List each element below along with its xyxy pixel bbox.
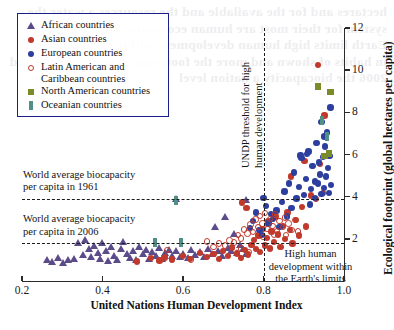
data-point <box>221 213 229 220</box>
y-tick <box>345 112 350 113</box>
reference-line-biocapacity-1961 <box>22 199 344 200</box>
y-tick-label: 4 <box>352 190 358 202</box>
legend-item-2[interactable]: European countries <box>24 47 164 60</box>
legend-marker-icon <box>24 61 38 74</box>
legend-item-label: African countries <box>41 19 114 31</box>
x-axis-line <box>22 281 344 282</box>
data-point <box>327 89 333 95</box>
legend-item-label: North American countries <box>41 85 150 97</box>
data-point <box>313 140 319 146</box>
data-point <box>243 205 249 211</box>
x-tick-label: 0.2 <box>11 284 33 296</box>
data-point <box>238 255 244 261</box>
data-point <box>299 204 305 210</box>
x-tick <box>263 276 264 281</box>
legend-item-label: Latin American and Caribbean countries <box>41 61 125 84</box>
data-point <box>328 182 334 188</box>
data-point <box>210 244 216 250</box>
y-tick <box>345 238 350 239</box>
data-point <box>211 223 219 230</box>
x-tick-label: 1.0 <box>333 284 355 296</box>
data-point <box>238 245 244 251</box>
data-point <box>288 205 294 211</box>
legend-item-0[interactable]: African countries <box>24 19 164 32</box>
x-tick <box>343 276 344 281</box>
annotation-biocapacity-2006: World average biocapacity per capita in … <box>23 213 135 238</box>
data-point <box>188 256 194 262</box>
data-point <box>96 255 104 262</box>
data-point <box>134 258 140 264</box>
x-tick <box>21 276 22 281</box>
y-tick <box>345 154 350 155</box>
data-point <box>312 178 318 184</box>
data-point <box>216 256 222 262</box>
data-point <box>286 180 292 186</box>
data-point <box>304 151 310 157</box>
annotation-biocapacity-1961: World average biocapacity per capita in … <box>23 169 135 194</box>
y-tick <box>345 27 350 28</box>
data-point <box>288 227 294 233</box>
annotation-undp-threshold: UNDP threshold for high human developmen… <box>240 62 265 168</box>
y-tick <box>345 69 350 70</box>
data-point <box>174 196 178 205</box>
data-point <box>204 254 210 260</box>
data-point <box>169 256 175 262</box>
legend-marker-icon <box>24 99 38 112</box>
data-point <box>309 163 315 169</box>
legend-item-3[interactable]: Latin American and Caribbean countries <box>24 61 164 84</box>
data-point <box>272 211 278 217</box>
y-tick-label: 2 <box>352 232 358 244</box>
data-point <box>238 235 244 241</box>
data-point <box>307 201 313 207</box>
y-axis-title: Ecological footprint (global hectares pe… <box>382 41 394 275</box>
x-tick <box>182 276 183 281</box>
data-point <box>322 143 328 149</box>
legend-item-4[interactable]: North American countries <box>24 85 164 98</box>
data-point <box>257 249 263 255</box>
data-point <box>325 132 329 141</box>
legend-marker-icon <box>24 33 38 46</box>
data-point <box>321 153 327 159</box>
legend-item-label: European countries <box>41 47 122 59</box>
data-point <box>113 256 121 263</box>
data-point <box>327 104 333 110</box>
data-point <box>316 159 322 165</box>
data-point <box>70 255 78 262</box>
x-tick-label: 0.4 <box>92 284 114 296</box>
y-tick-label: 8 <box>352 105 358 117</box>
y-tick-label: 12 <box>352 21 364 33</box>
data-point <box>315 83 321 89</box>
data-point <box>318 191 324 197</box>
data-point <box>296 184 302 190</box>
data-point <box>308 186 314 192</box>
data-point <box>295 228 301 234</box>
legend-item-label: Asian countries <box>41 33 107 45</box>
data-point <box>271 231 277 237</box>
legend-marker-icon <box>24 47 38 60</box>
data-point <box>164 247 170 253</box>
legend-item-5[interactable]: Oceanian countries <box>24 99 164 112</box>
x-tick-label: 0.6 <box>172 284 194 296</box>
data-point <box>323 173 329 179</box>
data-point <box>325 165 331 171</box>
legend-item-1[interactable]: Asian countries <box>24 33 164 46</box>
data-point <box>162 254 168 260</box>
x-tick-label: 0.8 <box>253 284 275 296</box>
data-point <box>312 195 318 201</box>
data-point <box>291 169 297 175</box>
data-point <box>315 62 321 68</box>
reference-line-biocapacity-2006 <box>22 243 344 244</box>
data-point <box>283 232 289 238</box>
data-point <box>180 253 186 259</box>
data-point <box>297 152 303 158</box>
data-point <box>59 259 67 266</box>
legend-item-label: Oceanian countries <box>41 99 122 111</box>
legend-marker-icon <box>24 19 38 32</box>
x-tick <box>102 276 103 281</box>
data-point <box>281 188 287 194</box>
x-axis-title: United Nations Human Development Index <box>0 299 393 311</box>
data-point <box>292 217 298 223</box>
data-point <box>301 192 307 198</box>
y-tick-label: 6 <box>352 148 358 160</box>
